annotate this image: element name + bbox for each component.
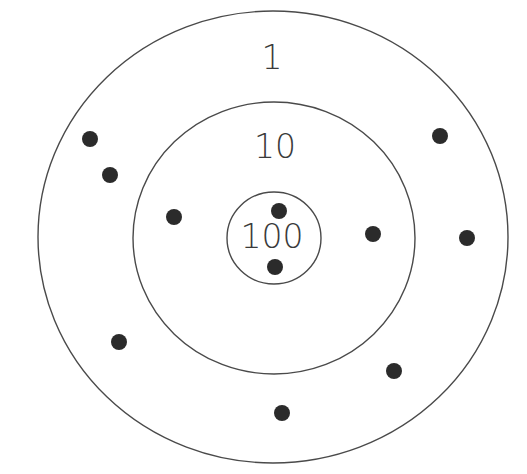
target-diagram: 1 10 100: [0, 0, 527, 474]
hit-dot: [386, 363, 402, 379]
label-outer-score: 1: [262, 38, 283, 77]
hit-dot: [267, 259, 283, 275]
hit-dot: [459, 230, 475, 246]
label-middle-score: 10: [254, 127, 296, 166]
hit-dot: [365, 226, 381, 242]
label-inner-score: 100: [241, 217, 304, 256]
hit-dot: [274, 405, 290, 421]
labels-group: 1 10 100: [241, 38, 304, 256]
hit-dot: [271, 203, 287, 219]
hit-dots-group: [82, 128, 475, 421]
hit-dot: [102, 167, 118, 183]
hit-dot: [111, 334, 127, 350]
hit-dot: [166, 209, 182, 225]
hit-dot: [432, 128, 448, 144]
hit-dot: [82, 131, 98, 147]
